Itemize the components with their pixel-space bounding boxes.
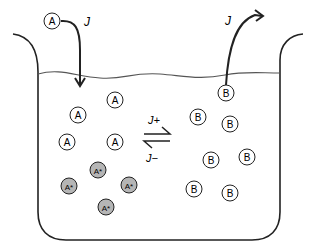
outflux-label: J: [224, 14, 232, 28]
svg-text:B: B: [191, 184, 198, 195]
svg-text:B: B: [223, 88, 230, 99]
svg-text:A*: A*: [102, 204, 110, 213]
particle-a: A: [107, 134, 123, 150]
reaction-vessel-diagram: A J J B J+ J− AAAAA*A*A*A*BBBBBB: [0, 0, 310, 250]
particle-b: B: [222, 185, 238, 201]
particle-b: B: [222, 116, 238, 132]
particle-a: A: [107, 92, 123, 108]
outgoing-particle-b: B: [218, 85, 234, 101]
svg-text:B: B: [208, 155, 215, 166]
svg-text:B: B: [244, 152, 251, 163]
svg-text:A: A: [64, 137, 71, 148]
liquid-surface: [38, 72, 280, 79]
influx-label: J: [83, 15, 91, 29]
particle-b: B: [186, 181, 202, 197]
svg-text:A*: A*: [94, 167, 102, 176]
equilibrium-arrows: J+ J−: [144, 114, 170, 164]
particle-a-excited: A*: [121, 177, 137, 193]
svg-text:B: B: [195, 112, 202, 123]
particle-a-excited: A*: [61, 178, 77, 194]
particle-b: B: [203, 152, 219, 168]
incoming-particle-a: A: [44, 13, 60, 29]
particle-b: B: [239, 149, 255, 165]
svg-text:A: A: [112, 95, 119, 106]
beaker-outline: [13, 34, 303, 240]
forward-rate-label: J+: [147, 114, 161, 126]
particle-a-excited: A*: [90, 162, 106, 178]
particle-a: A: [59, 134, 75, 150]
backward-rate-label: J−: [145, 152, 159, 164]
svg-text:A: A: [49, 16, 56, 27]
svg-text:A*: A*: [65, 183, 73, 192]
particle-b: B: [190, 109, 206, 125]
svg-text:A: A: [112, 137, 119, 148]
svg-text:B: B: [227, 188, 234, 199]
svg-text:A: A: [75, 110, 82, 121]
particle-a: A: [70, 107, 86, 123]
svg-text:B: B: [227, 119, 234, 130]
particle-a-excited: A*: [98, 199, 114, 215]
svg-text:A*: A*: [125, 182, 133, 191]
